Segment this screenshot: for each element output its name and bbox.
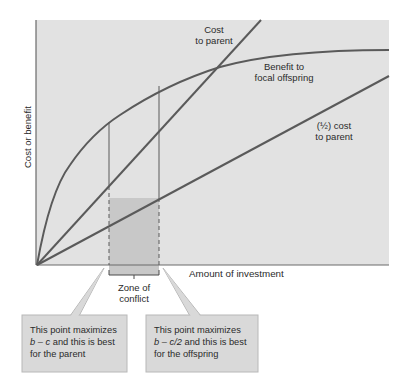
half-cost-to-parent-label: (½) cost to parent	[304, 120, 364, 142]
zone-of-conflict-label: Zone of conflict	[108, 282, 160, 304]
cost-to-parent-label: Cost to parent	[186, 24, 242, 46]
callout-parent-pointer	[70, 268, 104, 316]
benefit-to-offspring-label: Benefit to focal offspring	[244, 61, 324, 83]
parent-offspring-conflict-diagram: Cost or benefit Amount of investment Cos…	[0, 0, 406, 389]
callout-offspring-text: This point maximizes b – c/2 and this is…	[154, 324, 247, 360]
b-minus-c-expression: b – c	[30, 337, 50, 347]
x-axis-label: Amount of investment	[189, 268, 284, 279]
y-axis-label: Cost or benefit	[22, 108, 33, 168]
callout-parent-text: This point maximizes b – c and this is b…	[30, 324, 117, 360]
b-minus-c-half-expression: b – c/2	[154, 337, 182, 347]
